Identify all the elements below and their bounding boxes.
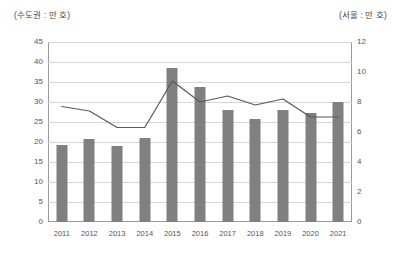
x-tick-label: 2018: [247, 229, 264, 238]
right-axis-unit-label: (서울 : 만 호): [339, 8, 387, 20]
chart-container: (수도권 : 만 호) (서울 : 만 호) 05101520253035404…: [0, 0, 400, 264]
bar: [222, 110, 233, 222]
right-tick-label: 12: [357, 38, 366, 46]
left-tick-label: 15: [34, 158, 43, 166]
left-tick-label: 0: [39, 218, 43, 226]
left-tick-label: 40: [34, 58, 43, 66]
left-axis-line: [48, 42, 49, 222]
x-tick-label: 2017: [219, 229, 236, 238]
bar: [112, 146, 123, 222]
bar: [195, 87, 206, 222]
left-tick-label: 5: [39, 198, 43, 206]
plot-area: 051015202530354045 024681012 20112012201…: [48, 42, 352, 222]
x-tick-label: 2012: [81, 229, 98, 238]
x-tick-label: 2019: [275, 229, 292, 238]
x-tick-label: 2014: [136, 229, 153, 238]
bar: [56, 145, 67, 222]
x-tick-label: 2015: [164, 229, 181, 238]
x-tick-label: 2013: [109, 229, 126, 238]
right-axis-line: [351, 42, 352, 222]
bar: [84, 139, 95, 222]
bar: [139, 138, 150, 222]
bar: [250, 119, 261, 222]
right-tick-label: 4: [357, 158, 361, 166]
left-tick-label: 20: [34, 138, 43, 146]
gridline: [48, 82, 352, 83]
right-tick-label: 8: [357, 98, 361, 106]
x-tick-label: 2021: [330, 229, 347, 238]
right-tick-label: 2: [357, 188, 361, 196]
left-tick-label: 30: [34, 98, 43, 106]
right-tick-label: 10: [357, 68, 366, 76]
left-tick-label: 45: [34, 38, 43, 46]
left-tick-label: 35: [34, 78, 43, 86]
right-tick-label: 6: [357, 128, 361, 136]
bar: [167, 68, 178, 222]
x-tick-label: 2011: [54, 229, 70, 238]
x-tick-label: 2020: [302, 229, 319, 238]
gridline: [48, 62, 352, 63]
left-axis-unit-label: (수도권 : 만 호): [14, 8, 70, 20]
bar: [305, 113, 316, 222]
right-tick-label: 0: [357, 218, 361, 226]
gridline: [48, 42, 352, 43]
x-tick-label: 2016: [192, 229, 209, 238]
bar: [333, 102, 344, 222]
left-tick-label: 10: [34, 178, 43, 186]
bar: [277, 110, 288, 222]
left-tick-label: 25: [34, 118, 43, 126]
